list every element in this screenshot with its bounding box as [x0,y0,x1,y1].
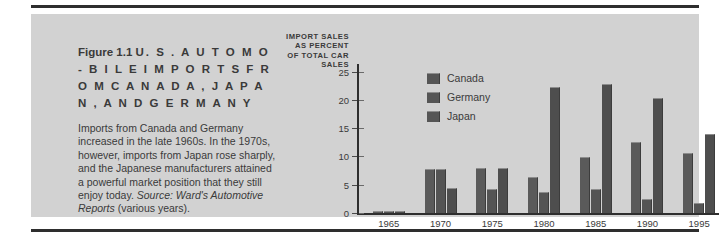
figure-description: Imports from Canada and Germany increase… [78,122,278,216]
y-tick-inner-5 [359,185,364,186]
bar-canada-1985 [580,157,590,213]
figure-caption: Figure 1.1 U. S . A U T O M O - B I L E … [78,44,278,216]
bar-germany-1975 [487,189,497,213]
y-tick-20 [352,100,357,101]
bar-germany-1990 [642,199,652,213]
y-tick-inner-0 [359,213,364,214]
y-tick-inner-25 [359,72,364,73]
y-tick-inner-10 [359,156,364,157]
figure-number: Figure 1.1 [78,46,132,58]
bar-germany-1985 [591,189,601,213]
y-tick-5 [352,185,357,186]
legend-item-germany: Germany [427,89,490,105]
bar-canada-1965 [373,211,383,213]
legend-item-japan: Japan [427,108,490,124]
y-tick-label-25: 25 [338,66,349,77]
legend-item-canada: Canada [427,70,490,86]
x-axis-label-1995: 1995 [689,218,710,229]
bar-canada-1990 [631,142,641,213]
x-axis-label-1975: 1975 [482,218,503,229]
x-axis-line [357,213,719,215]
bottom-divider-rule [31,229,699,232]
y-tick-25 [352,72,357,73]
bar-germany-1995 [694,203,704,213]
bar-japan-1970 [447,188,457,213]
y-tick-15 [352,128,357,129]
source-tail: (various years). [115,202,190,214]
bar-germany-1965 [384,211,394,213]
bar-japan-1980 [550,87,560,213]
y-axis-line [357,64,359,215]
x-axis-label-1985: 1985 [585,218,606,229]
bar-japan-1995 [705,134,715,213]
legend-label-germany: Germany [447,91,490,103]
bar-japan-1985 [602,84,612,213]
bar-japan-1990 [653,98,663,213]
bar-canada-1970 [425,169,435,213]
top-divider-rule [31,5,699,8]
figure-panel: Figure 1.1 U. S . A U T O M O - B I L E … [31,14,699,217]
y-tick-inner-20 [359,100,364,101]
x-axis-label-1965: 1965 [378,218,399,229]
legend-label-japan: Japan [447,110,476,122]
bar-chart: IMPORT SALES AS PERCENT OF TOTAL CAR SAL… [331,28,721,223]
legend-label-canada: Canada [447,72,484,84]
x-axis-label-1990: 1990 [637,218,658,229]
bar-japan-1965 [395,211,405,213]
plot-area: 05101520251965197019751980198519901995 [357,64,719,215]
legend-swatch-icon-germany [427,92,440,103]
y-tick-inner-15 [359,128,364,129]
y-tick-label-5: 5 [344,179,349,190]
bar-germany-1970 [436,169,446,213]
bar-canada-1995 [683,153,693,213]
bar-canada-1975 [476,168,486,213]
y-tick-10 [352,156,357,157]
y-tick-0 [352,213,357,214]
y-tick-label-10: 10 [338,151,349,162]
x-axis-label-1980: 1980 [533,218,554,229]
x-axis-label-1970: 1970 [430,218,451,229]
legend-swatch-icon-japan [427,111,440,122]
y-tick-label-0: 0 [344,208,349,219]
y-tick-label-15: 15 [338,123,349,134]
bar-japan-1975 [498,168,508,213]
bar-germany-1980 [539,192,549,213]
bar-canada-1980 [528,177,538,213]
legend-swatch-icon-canada [427,73,440,84]
chart-legend: CanadaGermanyJapan [427,70,490,127]
source-lead: Source: [137,189,173,201]
y-tick-label-20: 20 [338,94,349,105]
y-axis-title: IMPORT SALES AS PERCENT OF TOTAL CAR SAL… [229,32,349,70]
